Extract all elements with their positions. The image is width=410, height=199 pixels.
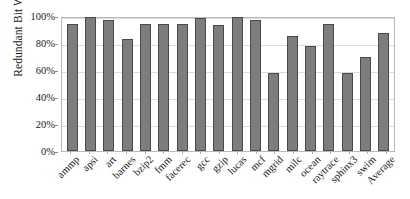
bar xyxy=(158,24,169,151)
bar xyxy=(323,24,334,151)
x-axis-tick-mark xyxy=(182,151,183,154)
bar xyxy=(378,33,389,151)
x-axis-tick-mark xyxy=(219,151,220,154)
bar-series xyxy=(62,18,394,151)
bar-slot xyxy=(246,18,264,151)
y-axis-tick-label: 20% xyxy=(36,120,55,130)
y-axis-tick-mark xyxy=(55,152,58,153)
y-axis-tick-mark xyxy=(55,125,58,126)
bar xyxy=(177,24,188,151)
x-axis-tick-label: ammp xyxy=(55,153,82,180)
x-axis-tick-mark xyxy=(330,151,331,154)
bar-slot xyxy=(320,18,338,151)
bar-slot xyxy=(210,18,228,151)
bar xyxy=(213,25,224,151)
x-axis-tick-mark xyxy=(386,151,387,154)
bar-slot xyxy=(81,18,99,151)
bar-slot xyxy=(136,18,154,151)
y-axis-tick-label: 80% xyxy=(36,39,55,49)
x-axis-tick-mark xyxy=(293,151,294,154)
x-axis-tick-mark xyxy=(200,151,201,154)
x-axis-tick-mark xyxy=(367,151,368,154)
y-axis-tick-label: 100% xyxy=(31,12,56,22)
y-axis-tick-mark xyxy=(55,17,58,18)
x-axis-tick-mark xyxy=(89,151,90,154)
bar-slot xyxy=(173,18,191,151)
bar-chart-figure: Redundant Bit Writes 0%20%40%60%80%100% … xyxy=(0,0,410,199)
x-axis-tick-mark xyxy=(237,151,238,154)
bar xyxy=(342,73,353,151)
y-axis-tick-label: 0% xyxy=(41,147,55,157)
bar-slot xyxy=(191,18,209,151)
plot-area xyxy=(61,17,395,152)
bar xyxy=(195,18,206,151)
y-axis-tick-mark xyxy=(55,71,58,72)
bar-slot xyxy=(356,18,374,151)
y-axis-tick-label: 60% xyxy=(36,66,55,76)
x-axis-tick-label: apsi xyxy=(80,153,100,173)
x-axis-tick-mark xyxy=(163,151,164,154)
bar xyxy=(140,24,151,151)
bar-slot xyxy=(228,18,246,151)
bar-slot xyxy=(301,18,319,151)
x-axis-tick-mark xyxy=(145,151,146,154)
x-axis-tick-mark xyxy=(274,151,275,154)
bar xyxy=(250,20,261,151)
bar xyxy=(287,36,298,151)
bar xyxy=(232,17,243,151)
bar xyxy=(268,73,279,151)
x-axis-tick-mark xyxy=(349,151,350,154)
bar-slot xyxy=(283,18,301,151)
y-axis-tick-labels: 0%20%40%60%80%100% xyxy=(30,11,58,157)
bar xyxy=(122,39,133,151)
bar-slot xyxy=(100,18,118,151)
bar xyxy=(305,46,316,151)
bar-slot xyxy=(338,18,356,151)
bar-slot xyxy=(375,18,393,151)
bar xyxy=(360,57,371,151)
y-axis-tick-mark xyxy=(55,98,58,99)
bar xyxy=(67,24,78,151)
bar-slot xyxy=(155,18,173,151)
bar xyxy=(85,17,96,151)
x-axis-tick-label: lucas xyxy=(225,153,249,177)
y-axis-title: Redundant Bit Writes xyxy=(11,0,25,96)
bar xyxy=(103,20,114,151)
bar-slot xyxy=(63,18,81,151)
y-axis-tick-mark xyxy=(55,44,58,45)
x-axis-tick-mark xyxy=(256,151,257,154)
x-axis-tick-mark xyxy=(126,151,127,154)
bar-slot xyxy=(118,18,136,151)
x-axis-tick-mark xyxy=(70,151,71,154)
x-axis-tick-labels: ammpapsiartbarnesbzip2fmmfacerecgccgzipl… xyxy=(61,153,395,199)
x-axis-tick-mark xyxy=(312,151,313,154)
x-axis-tick-label: gcc xyxy=(193,153,212,172)
bar-slot xyxy=(265,18,283,151)
x-axis-tick-mark xyxy=(107,151,108,154)
y-axis-tick-label: 40% xyxy=(36,93,55,103)
